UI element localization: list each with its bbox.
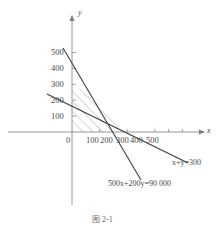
line-x-plus-y-300 — [47, 94, 188, 163]
y-tick-400: 400 — [51, 64, 64, 73]
x-tick-300: 300 — [116, 136, 129, 145]
x-tick-100: 100 — [86, 136, 99, 145]
y-tick-200: 200 — [51, 96, 64, 105]
figure-caption: 图 2-1 — [92, 216, 113, 224]
y-tick-300: 300 — [51, 80, 64, 89]
origin-label: 0 — [66, 136, 70, 145]
annotation-line1: x+y=300 — [172, 159, 201, 167]
annotation-line2: 500x+200y=90 000 — [108, 180, 171, 188]
figure-plot — [0, 0, 222, 225]
y-tick-100: 100 — [51, 112, 64, 121]
x-tick-400: 400 — [130, 136, 143, 145]
x-axis-label: x — [207, 127, 211, 135]
y-tick-500: 500 — [51, 48, 64, 57]
x-tick-200: 200 — [100, 136, 113, 145]
feasible-region-hatch — [72, 84, 122, 132]
y-axis-label: y — [78, 9, 82, 17]
x-tick-500: 500 — [146, 136, 159, 145]
